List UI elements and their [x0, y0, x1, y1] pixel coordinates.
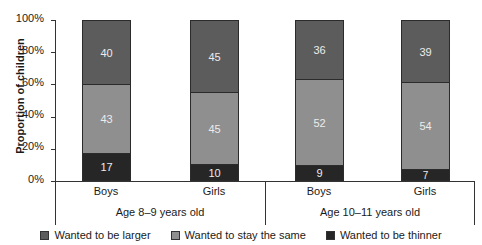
legend-label-larger: Wanted to be larger — [54, 229, 150, 241]
segment-thinner: 17 — [82, 153, 131, 181]
category-label-boys: Boys — [66, 185, 146, 197]
group-label-8-9: Age 8–9 years old — [60, 206, 260, 218]
segment-larger: 36 — [295, 20, 344, 80]
segment-larger: 40 — [82, 20, 131, 85]
y-tick-80: 80% — [4, 44, 44, 56]
bar-girls-8-9: 45 45 10 — [190, 20, 239, 181]
y-tick-0: 0% — [4, 173, 44, 185]
y-tick-60: 60% — [4, 76, 44, 88]
y-tick-20: 20% — [4, 140, 44, 152]
group-divider-left — [55, 181, 56, 225]
group-divider-middle — [265, 181, 266, 225]
segment-larger: 39 — [401, 20, 450, 83]
group-divider-right — [474, 181, 475, 225]
segment-thinner: 10 — [190, 164, 239, 181]
legend-item-thinner: Wanted to be thinner — [326, 229, 442, 241]
segment-same: 54 — [401, 82, 450, 170]
legend-swatch-same — [171, 231, 180, 240]
y-axis-line — [55, 20, 56, 182]
legend-swatch-thinner — [326, 231, 335, 240]
group-label-10-11: Age 10–11 years old — [270, 206, 470, 218]
segment-same: 45 — [190, 92, 239, 165]
category-label-girls: Girls — [174, 185, 254, 197]
y-tick-100: 100% — [4, 12, 44, 24]
bar-boys-10-11: 36 52 9 — [295, 20, 344, 181]
segment-thinner: 9 — [295, 165, 344, 181]
legend-label-thinner: Wanted to be thinner — [340, 229, 442, 241]
segment-thinner: 7 — [401, 169, 450, 181]
legend-swatch-larger — [40, 231, 49, 240]
segment-same: 43 — [82, 84, 131, 154]
y-tick-40: 40% — [4, 108, 44, 120]
legend-label-same: Wanted to stay the same — [185, 229, 306, 241]
segment-larger: 45 — [190, 20, 239, 93]
bar-girls-10-11: 39 54 7 — [401, 20, 450, 181]
legend-item-same: Wanted to stay the same — [171, 229, 306, 241]
category-label-boys: Boys — [279, 185, 359, 197]
segment-same: 52 — [295, 79, 344, 166]
category-label-girls: Girls — [385, 185, 465, 197]
legend: Wanted to be larger Wanted to stay the s… — [0, 229, 482, 241]
bar-boys-8-9: 40 43 17 — [82, 20, 131, 181]
legend-item-larger: Wanted to be larger — [40, 229, 150, 241]
